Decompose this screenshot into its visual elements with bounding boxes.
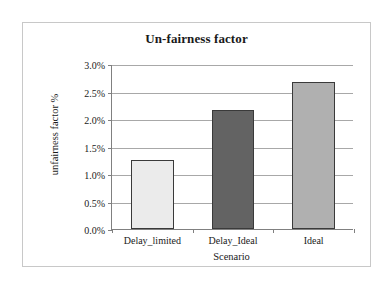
x-axis-tick xyxy=(193,229,194,233)
y-axis-tick xyxy=(108,203,112,204)
y-axis-tick-label: 0.0% xyxy=(84,225,105,236)
bar-Delay_limited[interactable] xyxy=(131,160,174,229)
bar-Ideal[interactable] xyxy=(292,82,335,229)
y-axis-tick-label: 1.5% xyxy=(84,142,105,153)
plot-area: 0.0%0.5%1.0%1.5%2.0%2.5%3.0%Delay_limite… xyxy=(111,65,353,230)
x-axis-label-Delay_limited: Delay_limited xyxy=(124,235,181,246)
y-axis-tick-label: 3.0% xyxy=(84,60,105,71)
y-axis-tick xyxy=(108,65,112,66)
x-axis-tick xyxy=(273,229,274,233)
y-axis-tick-label: 0.5% xyxy=(84,197,105,208)
gridline xyxy=(112,65,353,66)
y-axis-tick-label: 1.0% xyxy=(84,170,105,181)
y-axis-tick xyxy=(108,148,112,149)
y-axis-tick xyxy=(108,120,112,121)
y-axis-tick xyxy=(108,175,112,176)
x-axis-tick xyxy=(354,229,355,233)
x-axis-title: Scenario xyxy=(111,251,352,262)
y-axis-title: unfairness factor % xyxy=(49,55,60,215)
y-axis-tick xyxy=(108,93,112,94)
x-axis-label-Ideal: Ideal xyxy=(304,235,324,246)
x-axis-label-Delay_Ideal: Delay_Ideal xyxy=(209,235,258,246)
chart-title: Un-fairness factor xyxy=(23,31,370,47)
bar-Delay_Ideal[interactable] xyxy=(212,110,255,229)
chart-frame: Un-fairness factor unfairness factor % 0… xyxy=(22,22,371,267)
y-axis-tick-label: 2.0% xyxy=(84,115,105,126)
y-axis-tick-label: 2.5% xyxy=(84,87,105,98)
x-axis-tick xyxy=(112,229,113,233)
